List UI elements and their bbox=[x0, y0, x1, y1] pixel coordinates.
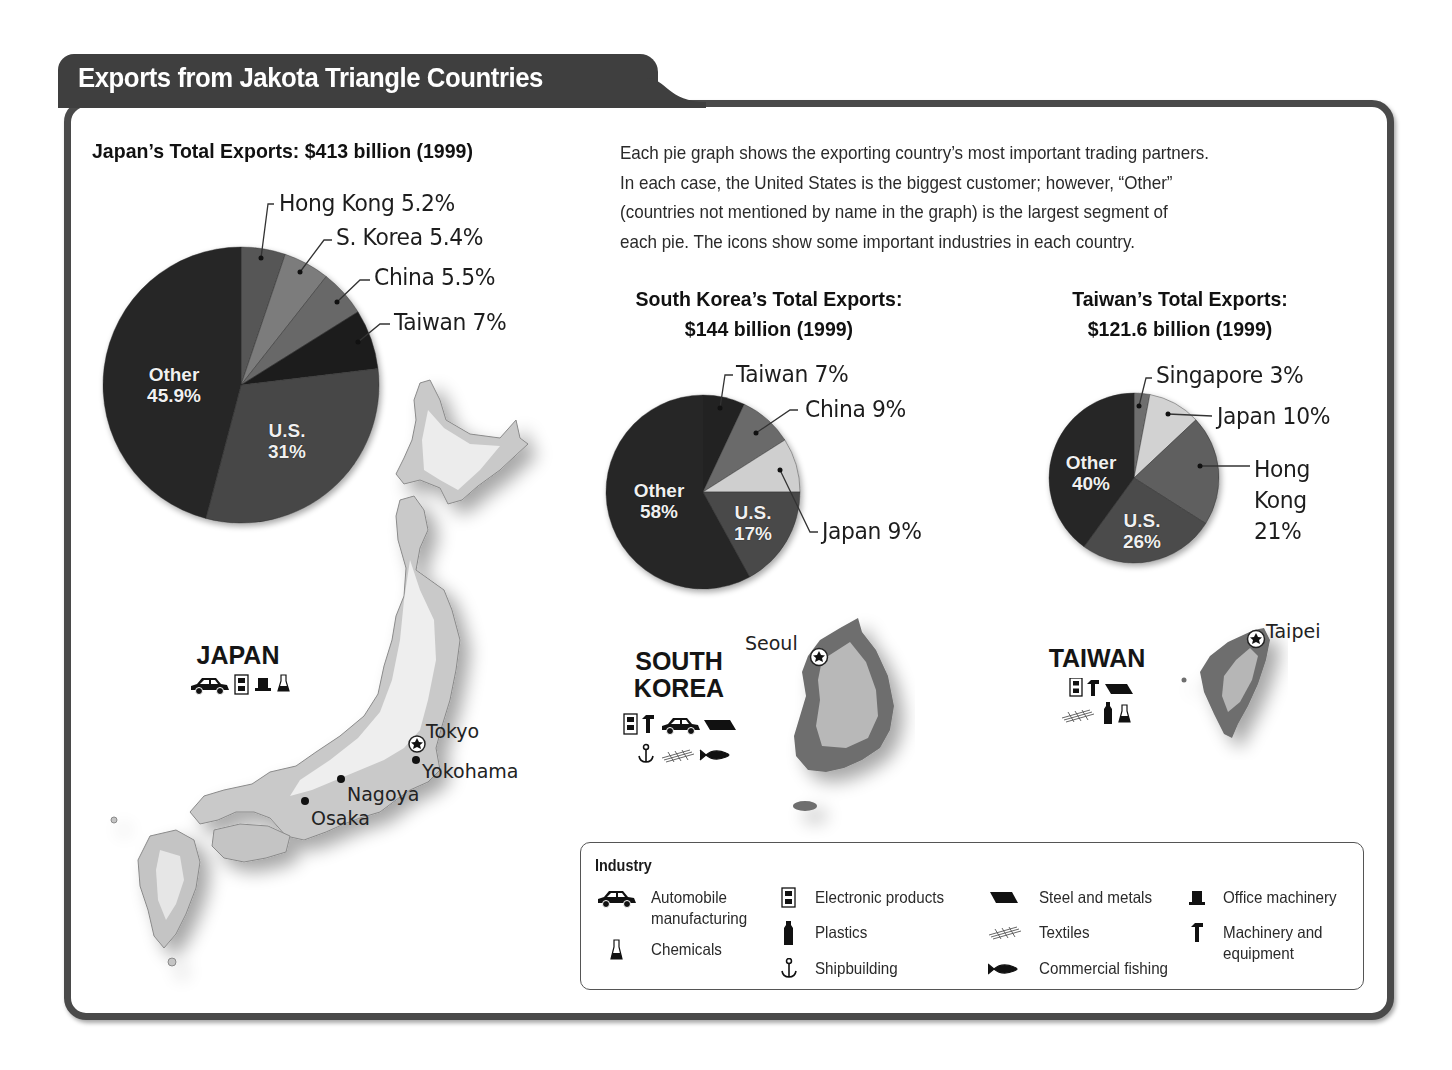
legend-item-office-machinery: Office machinery bbox=[1185, 887, 1347, 909]
fish-icon bbox=[985, 958, 1025, 980]
legend-item-fishing: Commercial fishing bbox=[985, 958, 1179, 980]
legend-item-chemicals: Chemicals bbox=[595, 939, 728, 961]
legend-item-electronics: Electronic products bbox=[777, 887, 955, 909]
flask-icon bbox=[595, 939, 639, 961]
electronics-icon bbox=[777, 887, 801, 909]
anchor-icon bbox=[777, 958, 801, 980]
car-icon bbox=[595, 887, 639, 909]
machinery-icon bbox=[1185, 922, 1209, 944]
taipei-capital-icon bbox=[1248, 631, 1265, 648]
legend-item-shipbuilding: Shipbuilding bbox=[777, 958, 905, 980]
legend-item-steel: Steel and metals bbox=[985, 887, 1162, 909]
steel-icon bbox=[985, 887, 1025, 909]
legend-item-automobile: Automobilemanufacturing bbox=[595, 887, 756, 929]
legend-title: Industry bbox=[595, 857, 652, 875]
office-machine-icon bbox=[1185, 887, 1209, 909]
industry-legend: Industry Automobilemanufacturing Chemica… bbox=[580, 842, 1364, 990]
textiles-icon bbox=[985, 922, 1025, 944]
legend-item-plastics: Plastics bbox=[777, 922, 872, 944]
city-taipei: Taipei bbox=[1266, 620, 1320, 642]
bottle-icon bbox=[777, 922, 801, 944]
legend-item-machinery: Machinery andequipment bbox=[1185, 922, 1331, 964]
legend-item-textiles: Textiles bbox=[985, 922, 1094, 944]
